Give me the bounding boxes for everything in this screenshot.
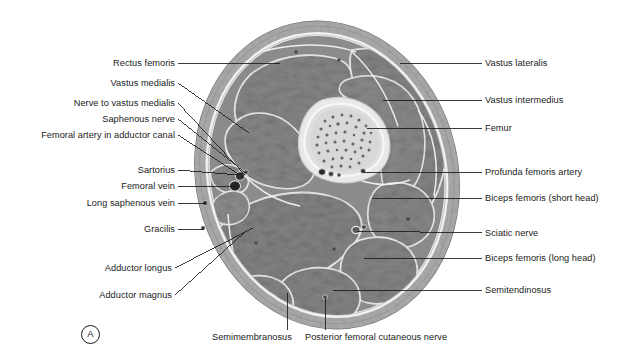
- annotation-label: Saphenous nerve: [102, 114, 175, 124]
- annotation-label: Sartorius: [138, 165, 175, 175]
- annotation-label: Vastus medialis: [111, 78, 175, 88]
- annotation-label: Long saphenous vein: [87, 198, 175, 208]
- annotation-label: Posterior femoral cutaneous nerve: [305, 332, 447, 342]
- vessel-profunda-femoris-artery: [318, 169, 325, 176]
- panel-letter: A: [81, 325, 100, 344]
- annotation-label: Gracilis: [144, 224, 175, 234]
- nerve-sciatic: [352, 226, 360, 233]
- annotation-label: Biceps femoris (short head): [485, 193, 599, 203]
- annotation-label: Biceps femoris (long head): [485, 253, 596, 263]
- annotation-label: Vastus lateralis: [485, 58, 547, 68]
- anatomical-figure: Rectus femorisVastus medialisNerve to va…: [0, 0, 618, 364]
- annotation-label: Adductor magnus: [99, 290, 172, 300]
- annotation-label: Femoral vein: [121, 181, 175, 191]
- annotation-label: Vastus intermedius: [485, 95, 563, 105]
- annotation-label: Rectus femoris: [113, 58, 175, 68]
- annotation-label: Profunda femoris artery: [485, 167, 582, 177]
- annotation-label: Semimembranosus: [212, 332, 292, 342]
- annotation-label: Sciatic nerve: [485, 228, 538, 238]
- annotation-label: Semitendinosus: [485, 285, 551, 295]
- annotation-label: Nerve to vastus medialis: [74, 98, 175, 108]
- annotation-label: Femoral artery in adductor canal: [41, 130, 175, 140]
- annotation-label: Femur: [485, 123, 512, 133]
- annotation-label: Adductor longus: [105, 263, 172, 273]
- thigh-cross-section-image: [0, 0, 618, 364]
